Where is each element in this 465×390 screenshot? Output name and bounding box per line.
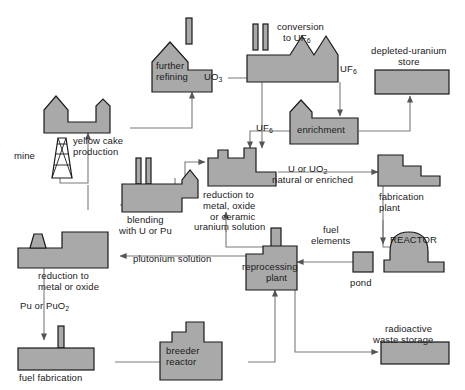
- label-mine: mine: [14, 150, 35, 161]
- label-breeder-line1: breeder: [166, 345, 199, 356]
- label-conversion-line2: to UF6: [283, 32, 311, 46]
- node-depleted-store-shape: [375, 70, 449, 94]
- label-depleted-store-line1: depleted-uranium: [371, 45, 447, 56]
- label-depleted-store-line2: store: [398, 56, 420, 67]
- node-fabrication-plant-shape: [378, 155, 440, 186]
- label-reduction-oxide-line2: metal or oxide: [38, 281, 99, 292]
- node-yellow-cake-shape: [44, 96, 110, 133]
- node-mine-shape: [52, 138, 72, 178]
- label-flow-uf6-mid: UF6: [256, 122, 273, 136]
- label-further-refining-line2: refining: [156, 71, 188, 82]
- label-reprocessing-line2: plant: [266, 272, 287, 283]
- label-conversion-line1: conversion: [277, 21, 324, 32]
- label-reduction-oxide-line1: reduction to: [38, 270, 89, 281]
- label-radioactive-waste-line2: waste storage: [373, 334, 433, 345]
- label-flow-uf6-top: UF6: [340, 63, 357, 77]
- label-pond: pond: [350, 277, 372, 288]
- node-reduction-ceramic-shape: [208, 148, 276, 186]
- label-fuel-fabrication: fuel fabrication: [19, 372, 82, 383]
- label-radioactive-waste-line1: radioactive: [385, 323, 432, 334]
- label-flow-uranium-solution: uranium solution: [194, 221, 265, 232]
- label-blending-line2: with U or Pu: [119, 225, 172, 236]
- node-radioactive-waste-shape: [381, 342, 449, 364]
- label-breeder-line2: reactor: [166, 356, 196, 367]
- label-flow-uo3: UO3: [204, 71, 222, 85]
- label-blending-line1: blending: [127, 214, 164, 225]
- label-fabrication-plant-line2: plant: [379, 202, 400, 213]
- node-reduction-oxide-shape: [18, 232, 108, 268]
- label-fabrication-plant-line1: fabrication: [379, 191, 424, 202]
- label-yellow-cake-line1: yellow cake: [73, 135, 123, 146]
- link-breeder-to-reprocessing: [248, 290, 275, 362]
- node-pond-shape: [353, 252, 373, 272]
- node-fuel-fabrication-shape: [18, 326, 94, 370]
- label-reprocessing-line1: reprocessing: [242, 261, 298, 272]
- link-enrichment-to-depletedstore: [359, 96, 410, 131]
- node-enrichment-shape: [290, 100, 358, 144]
- label-yellow-cake-line2: production: [73, 146, 118, 157]
- label-reduction-ceramic-line1: reduction to: [203, 189, 254, 200]
- label-flow-fuel-elements-line1: fuel: [323, 224, 339, 235]
- label-flow-pu-or-puo2: Pu or PuO2: [20, 300, 69, 314]
- label-flow-plutonium-solution: plutonium solution: [133, 253, 211, 264]
- label-flow-fuel-elements-line2: elements: [311, 235, 350, 246]
- label-enrichment: enrichment: [297, 124, 345, 135]
- link-yellowcake-to-refining: [130, 92, 192, 128]
- label-reactor: REACTOR: [390, 234, 437, 245]
- nuclear-fuel-cycle-diagram: mine yellow cake production further refi…: [0, 0, 465, 390]
- link-reprocessing-to-waste: [295, 285, 378, 352]
- label-flow-u-or-uo2-line2: natural or enriched: [272, 174, 353, 185]
- label-further-refining-line1: further: [156, 60, 184, 71]
- node-blending-shape: [122, 158, 198, 212]
- label-reduction-ceramic-line2: metal, oxide: [203, 200, 255, 211]
